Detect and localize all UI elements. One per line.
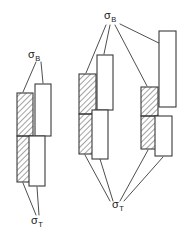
stress-label-left-sigma-b: σB <box>28 48 40 63</box>
sigma-glyph: σ <box>104 9 111 21</box>
leader-line <box>23 62 36 92</box>
hatched-stress-block <box>79 74 96 114</box>
leader-line <box>124 157 163 201</box>
sigma-glyph: σ <box>112 198 119 210</box>
subscript-glyph: B <box>111 15 116 24</box>
sigma-glyph: σ <box>28 48 35 60</box>
stress-label-left-sigma-t: σT <box>31 214 43 229</box>
subscript-glyph: T <box>119 204 124 213</box>
stress-blocks-group <box>17 31 176 186</box>
leader-line <box>120 150 148 201</box>
white-stress-block <box>97 55 113 110</box>
left-stress-diagram <box>17 84 51 186</box>
right-figure-right-stress-diagram <box>141 31 176 156</box>
stress-label-right-sigma-b: σB <box>104 9 116 24</box>
white-stress-block <box>159 31 176 107</box>
sigma-glyph: σ <box>31 214 38 226</box>
subscript-glyph: T <box>38 220 43 229</box>
stress-label-right-sigma-t: σT <box>112 198 124 213</box>
right-figure-left-stress-diagram <box>79 55 113 159</box>
hatched-stress-block <box>141 87 158 116</box>
leader-line <box>41 62 43 83</box>
leader-line <box>23 183 36 215</box>
hatched-stress-block <box>17 93 33 136</box>
stress-diagram-figure: σBσTσBσT <box>0 0 192 235</box>
leader-line <box>115 25 147 86</box>
subscript-glyph: B <box>35 54 40 63</box>
figure-canvas: σBσTσBσT <box>0 0 192 235</box>
leader-line <box>37 187 39 215</box>
white-stress-block <box>35 84 51 136</box>
white-stress-block <box>29 136 45 186</box>
white-stress-block <box>155 116 172 156</box>
white-stress-block <box>92 110 108 159</box>
leader-line <box>104 25 110 54</box>
